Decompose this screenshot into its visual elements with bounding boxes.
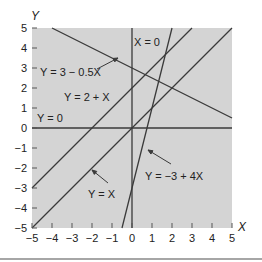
x-tick-label: 3: [189, 232, 195, 244]
label-y-eq-3-minus-0.5x: Y = 3 − 0.5X: [40, 66, 102, 78]
x-tick-label: −2: [86, 232, 99, 244]
y-tick-label: 1: [21, 102, 27, 114]
y-tick-label: 0: [21, 122, 27, 134]
y-tick-label: 3: [21, 62, 27, 74]
y-tick-label: 5: [21, 22, 27, 34]
x-tick-label: 2: [169, 232, 175, 244]
label-y-eq-x: Y = X: [88, 188, 116, 200]
x-tick-label: −5: [26, 232, 39, 244]
y-tick-label: 2: [21, 82, 27, 94]
y-tick-label: −1: [14, 142, 27, 154]
x-tick-label: 4: [209, 232, 215, 244]
y-tick-label: 4: [21, 42, 27, 54]
label-y-eq-2-plus-x: Y = 2 + X: [64, 91, 110, 103]
label-y-eq-minus3-plus-4x: Y = −3 + 4X: [145, 170, 204, 182]
x-axis-title: X: [237, 220, 247, 234]
label-y-eq-0: Y = 0: [37, 112, 63, 124]
x-tick-label: 0: [129, 232, 135, 244]
x-tick-label: −1: [106, 232, 119, 244]
label-x-eq-0: X = 0: [134, 36, 160, 48]
y-tick-label: −4: [14, 202, 27, 214]
x-tick-label: 5: [229, 232, 235, 244]
y-axis-title: Y: [31, 9, 40, 23]
y-tick-label: −2: [14, 162, 27, 174]
x-tick-label: 1: [149, 232, 155, 244]
x-axis-tick-labels: −5−4−3−2−1012345: [26, 232, 235, 244]
x-tick-label: −4: [46, 232, 59, 244]
y-tick-label: −3: [14, 182, 27, 194]
y-tick-label: −5: [14, 222, 27, 234]
y-axis-tick-labels: 543210−1−2−3−4−5: [14, 22, 27, 234]
chart-canvas: −5−4−3−2−1012345 543210−1−2−3−4−5 X Y Y …: [0, 0, 262, 262]
x-tick-label: −3: [66, 232, 79, 244]
